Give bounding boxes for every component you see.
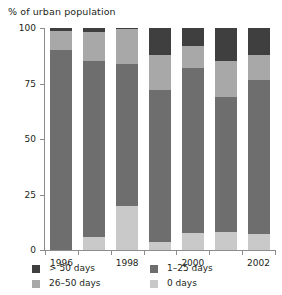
chart-legend: > 50 days1–25 days26–50 days0 days (32, 261, 272, 291)
bar-segment (182, 28, 204, 46)
bar-1996[interactable] (50, 28, 72, 250)
bar-segment (50, 31, 72, 50)
x-axis-tick (78, 250, 79, 255)
x-axis-tick (144, 250, 145, 255)
bar-segment (215, 61, 237, 97)
legend-item[interactable]: 26–50 days (32, 279, 150, 288)
x-axis-tick (242, 250, 243, 255)
legend-swatch-icon (32, 265, 40, 273)
bar-segment (248, 55, 270, 81)
y-axis-tick (40, 28, 45, 29)
legend-swatch-icon (150, 265, 158, 273)
bar-segment (116, 29, 138, 63)
bar-segment (149, 90, 171, 242)
bar-segment (215, 97, 237, 232)
y-axis-label: 75 (5, 79, 36, 89)
bar-segment (149, 55, 171, 91)
y-axis-tick (40, 139, 45, 140)
y-axis-tick (40, 84, 45, 85)
legend-swatch-icon (32, 280, 40, 288)
bar-segment (149, 28, 171, 55)
bar-segment (215, 232, 237, 250)
y-axis-label: 0 (5, 245, 36, 255)
bar-segment (116, 64, 138, 206)
bar-segment (215, 28, 237, 61)
y-axis-label: 25 (5, 190, 36, 200)
bar-1997[interactable] (83, 28, 105, 250)
x-axis-tick (209, 250, 210, 255)
chart-container: % of urban population 0255075100 1996199… (0, 0, 282, 295)
legend-item[interactable]: > 50 days (32, 264, 150, 273)
legend-label: 0 days (167, 279, 197, 288)
bar-segment (116, 28, 138, 29)
bar-segment (50, 28, 72, 31)
y-axis-label: 100 (5, 23, 36, 33)
legend-item[interactable]: 0 days (150, 279, 268, 288)
bar-2002[interactable] (248, 28, 270, 250)
bar-segment (83, 32, 105, 61)
bar-1998[interactable] (116, 28, 138, 250)
bar-2000[interactable] (182, 28, 204, 250)
bar-1999[interactable] (149, 28, 171, 250)
plot-area: 0255075100 1996199820002002 (45, 28, 275, 250)
x-axis-tick (275, 250, 276, 255)
legend-item[interactable]: 1–25 days (150, 264, 268, 273)
bar-2001[interactable] (215, 28, 237, 250)
chart-title: % of urban population (8, 6, 116, 17)
bar-segment (248, 28, 270, 55)
bar-segment (50, 50, 72, 250)
bar-segment (182, 46, 204, 68)
bar-segment (149, 242, 171, 250)
y-axis-label: 50 (5, 134, 36, 144)
bar-segment (83, 28, 105, 32)
bar-segment (182, 68, 204, 233)
x-axis-tick (45, 250, 46, 255)
bar-segment (182, 233, 204, 250)
bar-segment (248, 234, 270, 250)
legend-swatch-icon (150, 280, 158, 288)
bar-segment (248, 80, 270, 234)
y-axis-tick (40, 195, 45, 196)
x-axis-tick (176, 250, 177, 255)
legend-label: > 50 days (49, 264, 95, 273)
bar-segment (83, 61, 105, 236)
legend-label: 26–50 days (49, 279, 101, 288)
legend-label: 1–25 days (167, 264, 213, 273)
x-axis-tick (111, 250, 112, 255)
bar-segment (83, 237, 105, 250)
bar-segment (116, 206, 138, 250)
